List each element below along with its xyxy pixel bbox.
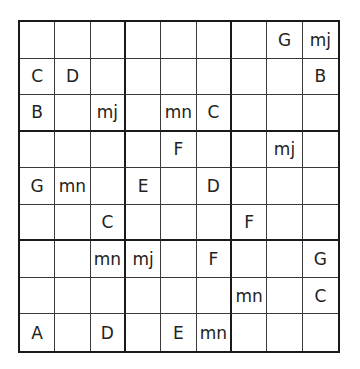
grid-cell-r7-c5[interactable] (161, 241, 196, 278)
grid-cell-r5-c7[interactable] (232, 168, 267, 205)
grid-cell-r5-c1[interactable]: G (20, 168, 55, 205)
grid-cell-r2-c6[interactable] (197, 59, 232, 96)
grid-cell-r7-c6[interactable]: F (197, 241, 232, 278)
grid-cell-r9-c8[interactable] (267, 314, 302, 351)
grid-cell-r6-c8[interactable] (267, 205, 302, 242)
grid-cell-r6-c7[interactable]: F (232, 205, 267, 242)
grid-cell-r6-c2[interactable] (55, 205, 90, 242)
grid-cell-r2-c8[interactable] (267, 59, 302, 96)
grid-cell-r5-c3[interactable] (91, 168, 126, 205)
grid-cell-r9-c1[interactable]: A (20, 314, 55, 351)
grid-cell-r7-c1[interactable] (20, 241, 55, 278)
grid-cell-r2-c1[interactable]: C (20, 59, 55, 96)
grid-cell-r1-c2[interactable] (55, 22, 90, 59)
grid-cell-r4-c8[interactable]: mj (267, 132, 302, 169)
grid-cell-r3-c1[interactable]: B (20, 95, 55, 132)
grid-cell-r4-c3[interactable] (91, 132, 126, 169)
grid-cell-r4-c2[interactable] (55, 132, 90, 169)
grid-cell-r3-c9[interactable] (303, 95, 338, 132)
grid-cell-r6-c6[interactable] (197, 205, 232, 242)
grid-cell-r7-c9[interactable]: G (303, 241, 338, 278)
grid-cell-r3-c7[interactable] (232, 95, 267, 132)
grid-cell-r1-c6[interactable] (197, 22, 232, 59)
grid-cell-r2-c5[interactable] (161, 59, 196, 96)
grid-cell-r5-c9[interactable] (303, 168, 338, 205)
grid-cell-r9-c3[interactable]: D (91, 314, 126, 351)
grid-cell-r5-c2[interactable]: mn (55, 168, 90, 205)
grid-cell-r6-c3[interactable]: C (91, 205, 126, 242)
grid-cell-r1-c8[interactable]: G (267, 22, 302, 59)
grid-cell-r7-c3[interactable]: mn (91, 241, 126, 278)
grid-cell-r7-c8[interactable] (267, 241, 302, 278)
grid-cell-r2-c7[interactable] (232, 59, 267, 96)
grid-cell-r4-c4[interactable] (126, 132, 161, 169)
grid-cell-r7-c2[interactable] (55, 241, 90, 278)
grid-cell-r8-c3[interactable] (91, 278, 126, 315)
grid-cell-r2-c4[interactable] (126, 59, 161, 96)
grid-cell-r5-c6[interactable]: D (197, 168, 232, 205)
grid-cell-r3-c4[interactable] (126, 95, 161, 132)
grid-cell-r2-c9[interactable]: B (303, 59, 338, 96)
grid-cell-r9-c5[interactable]: E (161, 314, 196, 351)
grid-cell-r8-c4[interactable] (126, 278, 161, 315)
grid-cell-r8-c9[interactable]: C (303, 278, 338, 315)
grid-cell-r6-c5[interactable] (161, 205, 196, 242)
grid-cell-r1-c1[interactable] (20, 22, 55, 59)
grid-cell-r2-c2[interactable]: D (55, 59, 90, 96)
grid-cell-r9-c4[interactable] (126, 314, 161, 351)
grid-cell-r4-c9[interactable] (303, 132, 338, 169)
grid-cell-r4-c7[interactable] (232, 132, 267, 169)
grid-cell-r4-c1[interactable] (20, 132, 55, 169)
grid-cell-r8-c8[interactable] (267, 278, 302, 315)
grid-cell-r3-c2[interactable] (55, 95, 90, 132)
grid-cell-r2-c3[interactable] (91, 59, 126, 96)
grid-cell-r3-c6[interactable]: C (197, 95, 232, 132)
grid-cell-r6-c1[interactable] (20, 205, 55, 242)
grid-cell-r4-c5[interactable]: F (161, 132, 196, 169)
grid-cell-r7-c7[interactable] (232, 241, 267, 278)
grid-cell-r5-c8[interactable] (267, 168, 302, 205)
grid-cell-r9-c2[interactable] (55, 314, 90, 351)
grid-cell-r1-c9[interactable]: mj (303, 22, 338, 59)
grid-cell-r8-c6[interactable] (197, 278, 232, 315)
grid-cell-r3-c8[interactable] (267, 95, 302, 132)
grid-cell-r5-c4[interactable]: E (126, 168, 161, 205)
grid-cell-r1-c3[interactable] (91, 22, 126, 59)
grid-cell-r1-c7[interactable] (232, 22, 267, 59)
grid-cell-r4-c6[interactable] (197, 132, 232, 169)
grid-cell-r9-c6[interactable]: mn (197, 314, 232, 351)
sudoku-board: GmjCDBBmjmnCFmjGmnEDCFmnmjFGmnCADEmn (18, 20, 340, 353)
grid-cell-r1-c5[interactable] (161, 22, 196, 59)
grid-cell-r9-c7[interactable] (232, 314, 267, 351)
grid-cell-r7-c4[interactable]: mj (126, 241, 161, 278)
grid-cell-r8-c7[interactable]: mn (232, 278, 267, 315)
grid-cell-r8-c5[interactable] (161, 278, 196, 315)
grid-cell-r3-c3[interactable]: mj (91, 95, 126, 132)
grid-cell-r8-c1[interactable] (20, 278, 55, 315)
grid-cell-r9-c9[interactable] (303, 314, 338, 351)
grid-cell-r6-c4[interactable] (126, 205, 161, 242)
grid-cell-r5-c5[interactable] (161, 168, 196, 205)
grid-cell-r6-c9[interactable] (303, 205, 338, 242)
grid-cell-r8-c2[interactable] (55, 278, 90, 315)
grid-cell-r1-c4[interactable] (126, 22, 161, 59)
grid-cell-r3-c5[interactable]: mn (161, 95, 196, 132)
